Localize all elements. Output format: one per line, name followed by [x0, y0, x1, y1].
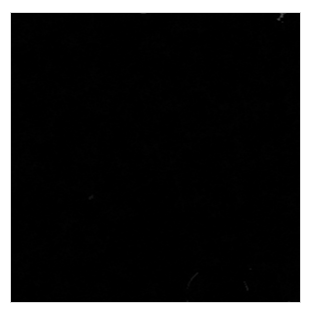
page-root [0, 0, 318, 316]
ct-image-frame [10, 12, 301, 303]
ct-skull-volume-rendering-canvas [11, 13, 301, 303]
